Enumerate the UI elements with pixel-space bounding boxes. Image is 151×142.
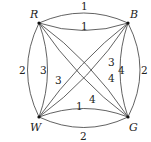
edge-w-g-inner xyxy=(39,109,128,118)
edge-label-r-w-outer: 2 xyxy=(19,64,26,76)
edge-label-r-b-inner: 1 xyxy=(81,20,88,32)
edge-b-w-lower xyxy=(39,23,128,117)
vertex-label-b: B xyxy=(129,8,138,21)
vertex-label-g: G xyxy=(129,121,138,134)
edge-label-r-g-upper: 4 xyxy=(108,72,115,84)
vertex-r xyxy=(37,21,40,24)
edge-r-g-upper xyxy=(39,23,128,117)
vertex-label-w: W xyxy=(30,121,43,134)
vertex-w xyxy=(37,115,40,118)
edge-label-b-g-outer: 2 xyxy=(141,64,148,76)
edge-label-w-g-outer: 2 xyxy=(80,130,87,142)
edge-label-b-g-inner: 4 xyxy=(118,64,125,76)
edge-label-w-g-inner: 1 xyxy=(76,100,83,112)
edge-w-g-outer xyxy=(39,117,128,128)
edge-r-g-lower xyxy=(39,23,128,117)
graph-diagram: R B W G 1 1 1 2 2 3 2 4 3 3 4 4 xyxy=(0,0,151,142)
edge-label-r-b-outer: 1 xyxy=(81,0,88,12)
edge-r-w-outer xyxy=(28,23,40,117)
vertex-label-r: R xyxy=(29,8,38,21)
vertex-g xyxy=(126,115,129,118)
edge-label-b-w-upper: 3 xyxy=(108,56,115,68)
vertex-b xyxy=(126,21,129,24)
edge-label-r-w-inner: 3 xyxy=(40,64,47,76)
edge-b-g-outer xyxy=(128,23,140,117)
edge-label-b-w-lower: 3 xyxy=(55,74,62,86)
edge-label-r-g-lower: 4 xyxy=(89,93,96,105)
edge-b-w-upper xyxy=(39,23,128,117)
